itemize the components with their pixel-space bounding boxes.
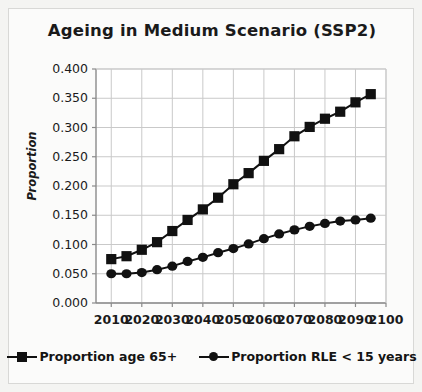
chart-figure: Ageing in Medium Scenario (SSP2) Proport… — [0, 0, 422, 392]
legend-entry-rle-15[interactable]: Proportion RLE < 15 years — [199, 349, 416, 364]
y-tick-label: 0.300 — [38, 122, 88, 134]
y-tick-label: 0.350 — [38, 92, 88, 104]
y-tick-label: 0.000 — [38, 297, 88, 309]
y-tick-label: 0.400 — [38, 63, 88, 75]
y-tick-label: 0.200 — [38, 180, 88, 192]
legend-label-age-65: Proportion age 65+ — [39, 349, 177, 364]
legend-label-rle-15: Proportion RLE < 15 years — [231, 349, 416, 364]
y-tick-label: 0.100 — [38, 239, 88, 251]
legend-marker-diamond-icon — [199, 350, 229, 364]
legend-entry-age-65[interactable]: Proportion age 65+ — [7, 349, 177, 364]
plot-area-wrapper: Proportion 0.0000.0500.1000.1500.2000.25… — [9, 9, 415, 385]
chart-card: Ageing in Medium Scenario (SSP2) Proport… — [8, 8, 414, 384]
legend-marker-square-icon — [7, 350, 37, 364]
y-tick-label: 0.050 — [38, 268, 88, 280]
chart-legend: Proportion age 65+ Proportion RLE < 15 y… — [9, 349, 415, 364]
x-tick-label: 2100 — [365, 313, 407, 326]
y-tick-label: 0.150 — [38, 209, 88, 221]
y-tick-label: 0.250 — [38, 151, 88, 163]
